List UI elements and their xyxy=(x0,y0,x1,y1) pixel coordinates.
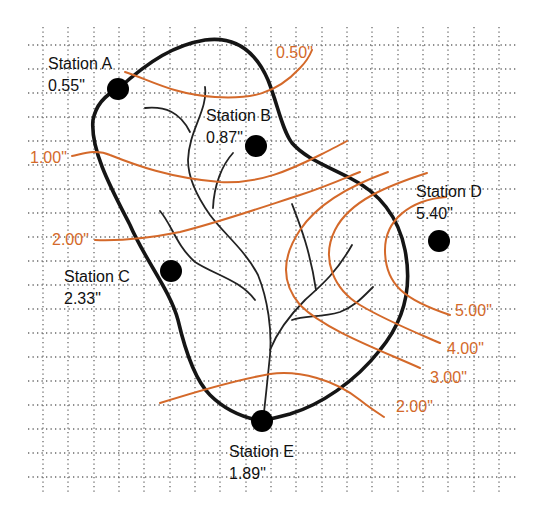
station-c-marker[interactable] xyxy=(160,260,182,282)
station-b-marker[interactable] xyxy=(245,135,267,157)
station-e-name: Station E xyxy=(229,443,294,460)
isohyet-label-4-00: 4.00" xyxy=(447,340,484,357)
isohyet-3-00 xyxy=(286,172,420,368)
stream-tributary-upper-b xyxy=(213,153,233,208)
station-c-name: Station C xyxy=(64,268,130,285)
station-b-name: Station B xyxy=(206,107,271,124)
stream-tributary-upper-left xyxy=(145,108,190,132)
isohyet-label-1-00: 1.00" xyxy=(30,149,67,166)
station-d-marker[interactable] xyxy=(428,230,450,252)
station-e-marker[interactable] xyxy=(251,410,273,432)
station-a-marker[interactable] xyxy=(107,78,129,100)
station-e-rainfall: 1.89" xyxy=(229,465,266,482)
isohyet-label-2-00-left: 2.00" xyxy=(52,231,89,248)
isohyet-label-3-00: 3.00" xyxy=(430,369,467,386)
isohyet-label-0-50: 0.50" xyxy=(276,44,313,61)
station-c-rainfall: 2.33" xyxy=(64,290,101,307)
isohyet-1-00 xyxy=(72,141,347,182)
stream-tributary-right-lower xyxy=(292,287,373,320)
station-d-name: Station D xyxy=(416,183,482,200)
station-a-name: Station A xyxy=(48,55,112,72)
isohyet-label-2-00-right: 2.00" xyxy=(396,398,433,415)
station-b-rainfall: 0.87" xyxy=(206,129,243,146)
station-d-rainfall: 5.40" xyxy=(416,205,453,222)
isohyet-label-5-00: 5.00" xyxy=(455,302,492,319)
isohyet-lines xyxy=(72,50,450,417)
station-a-rainfall: 0.55" xyxy=(48,77,85,94)
watershed-map: Station A 0.55" Station B 0.87" Station … xyxy=(0,0,538,512)
